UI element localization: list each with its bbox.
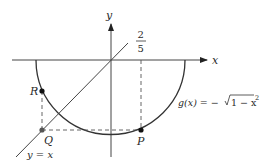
line-label: y = x	[26, 149, 53, 160]
point-R	[39, 88, 44, 93]
point-P-label: P	[136, 135, 145, 148]
tick-label-numerator: 2	[138, 29, 144, 40]
point-Q	[39, 127, 44, 132]
point-Q-label: Q	[44, 134, 53, 147]
x-axis-label: x	[212, 54, 219, 67]
function-label-radicand: 1 − x	[231, 97, 257, 108]
tick-label-denominator: 5	[138, 43, 144, 54]
function-label: g(x) = − 1 − x 2	[178, 94, 259, 108]
point-P	[138, 127, 143, 132]
function-label-prefix: g(x) = −	[178, 97, 219, 108]
function-label-exponent: 2	[255, 94, 259, 102]
y-axis-label: y	[105, 9, 113, 22]
function-diagram: x y 2 5 y = x R Q P g(x) = − 1 − x 2	[0, 0, 263, 168]
point-R-label: R	[29, 85, 38, 98]
